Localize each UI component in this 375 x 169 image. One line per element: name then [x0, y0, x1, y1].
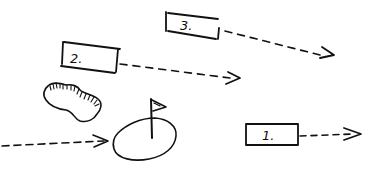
box-3-dashed-arrow [225, 31, 334, 58]
putting-green [113, 118, 176, 160]
bunker-icon [44, 83, 101, 122]
golf-sketch-diagram: 3. 2. 1. [0, 0, 375, 169]
box-2-dashed-arrow [120, 64, 240, 84]
box-3: 3. [166, 12, 219, 39]
box-1-label: 1. [262, 128, 274, 143]
box-1: 1. [246, 124, 298, 145]
box-2-label: 2. [70, 51, 82, 66]
box-1-dashed-arrow [300, 128, 361, 140]
box-2: 2. [61, 42, 120, 73]
approach-dashed-arrow [2, 135, 108, 147]
box-3-label: 3. [180, 18, 192, 33]
